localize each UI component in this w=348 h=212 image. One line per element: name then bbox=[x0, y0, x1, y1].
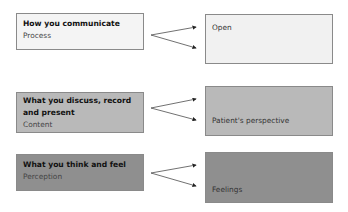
content-title: What you discuss, record and present bbox=[23, 95, 133, 119]
perception-box: What you think and feel Perception bbox=[16, 154, 144, 191]
open-box: Open bbox=[205, 14, 333, 64]
process-subtitle: Process bbox=[23, 30, 137, 41]
process-title: How you communicate bbox=[23, 18, 137, 30]
open-label: Open bbox=[212, 23, 232, 32]
content-box: What you discuss, record and present Con… bbox=[16, 92, 144, 133]
content-subtitle: Content bbox=[23, 119, 137, 130]
perception-title: What you think and feel bbox=[23, 159, 137, 171]
perception-subtitle: Perception bbox=[23, 171, 137, 182]
feelings-label: Feelings bbox=[212, 185, 242, 194]
patient-perspective-label: Patient's perspective bbox=[212, 116, 289, 125]
patient-perspective-box: Patient's perspective bbox=[205, 86, 333, 136]
process-box: How you communicate Process bbox=[16, 13, 144, 50]
feelings-box: Feelings bbox=[205, 152, 333, 203]
